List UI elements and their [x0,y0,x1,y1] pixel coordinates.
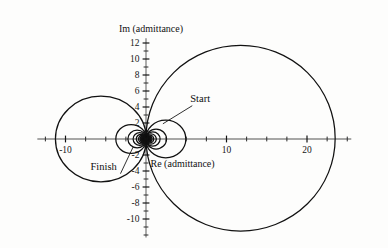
y-tick-label: 6 [135,86,140,96]
y-axis-title: Im (admittance) [119,23,183,35]
y-tick-label: -6 [132,182,140,192]
y-tick-label: 10 [130,54,140,64]
y-tick-label: 8 [135,70,140,80]
y-tick-label: -8 [132,198,140,208]
y-tick-label: -10 [127,214,140,224]
annotation-label: Finish [90,161,117,172]
y-tick-label: 2 [135,118,140,128]
x-axis-tick-labels: -101020 [59,145,312,155]
admittance-curves [55,45,335,231]
y-tick-label: 4 [135,102,140,112]
y-tick-label: -2 [132,150,140,160]
chart-canvas: -101020 12108642-2-4-6-8-10 StartFinish … [0,0,388,248]
annotation-label: Start [190,93,210,104]
y-tick-label: 12 [130,38,140,48]
annotation-leader-line [163,106,192,124]
x-tick-label: 20 [302,145,312,155]
y-tick-label: -4 [132,166,140,176]
x-tick-label: -10 [59,145,72,155]
admittance-nyquist-plot: -101020 12108642-2-4-6-8-10 StartFinish … [0,0,388,248]
x-tick-label: 10 [222,145,232,155]
x-axis-title: Re (admittance) [151,158,215,170]
